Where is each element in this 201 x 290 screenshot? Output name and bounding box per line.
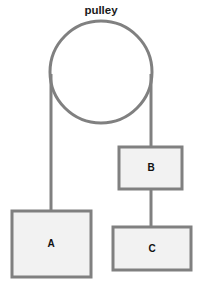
pulley-wheel-circle [50, 21, 152, 123]
pulley-diagram-canvas: A B C pulley [0, 0, 201, 290]
pulley-title-label: pulley [84, 4, 118, 16]
pulley-diagram-svg: A B C pulley [0, 0, 201, 290]
block-b-label: B [147, 162, 154, 173]
block-c-label: C [148, 243, 155, 254]
block-a-label: A [47, 238, 54, 249]
